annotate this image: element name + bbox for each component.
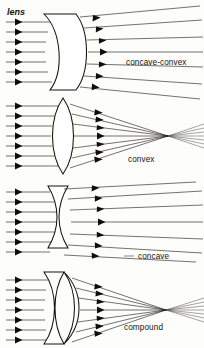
panel-label-concave: concave xyxy=(138,252,170,261)
panel-label-concave-convex: concave-convex xyxy=(126,58,187,67)
panel-concave: concave xyxy=(6,182,203,262)
panel-compound: compound xyxy=(6,272,204,344)
panel-convex: convex xyxy=(6,98,204,174)
figure-title: lens xyxy=(7,7,25,17)
incoming-rays-convex xyxy=(6,103,58,170)
lens-shape-convex xyxy=(53,98,74,174)
panel-concave-convex: concave-convex xyxy=(6,6,203,99)
lens-diagram-figure: concave-convex xyxy=(0,0,204,348)
optics-lens-svg: concave-convex xyxy=(0,0,204,348)
outgoing-rays-concave-convex xyxy=(80,6,203,99)
outgoing-rays-concave xyxy=(64,182,203,262)
outgoing-rays-compound xyxy=(72,278,204,342)
lens-shape-concave-convex xyxy=(44,14,87,90)
incoming-rays-compound xyxy=(6,277,48,344)
lens-shape-compound-element-right xyxy=(64,272,79,344)
panel-label-convex: convex xyxy=(128,155,155,164)
lens-shape-compound-element-left xyxy=(44,272,64,344)
panel-label-compound: compound xyxy=(124,323,163,332)
lens-shape-concave xyxy=(48,186,68,248)
incoming-rays-concave-convex xyxy=(6,19,52,86)
